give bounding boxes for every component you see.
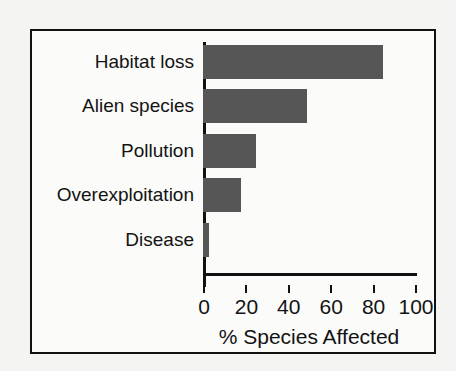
- x-axis-title: % Species Affected: [219, 325, 400, 349]
- x-tick-label-20: 20: [235, 295, 258, 319]
- category-label-habitat-loss: Habitat loss: [95, 45, 194, 79]
- category-label-overexploitation: Overexploitation: [57, 178, 194, 212]
- bar-row: Habitat loss: [203, 45, 383, 79]
- x-tick-label-60: 60: [320, 295, 343, 319]
- x-axis-line: [203, 273, 417, 276]
- x-tick-label-0: 0: [198, 295, 210, 319]
- x-tick-40: [288, 285, 290, 293]
- plot-area: Habitat loss Alien species Pollution Ove…: [203, 42, 415, 284]
- x-tick-60: [330, 285, 332, 293]
- bar-disease: [203, 223, 209, 257]
- bar-row: Disease: [203, 223, 209, 257]
- chart-frame: Habitat loss Alien species Pollution Ove…: [30, 29, 436, 354]
- bar-pollution: [203, 134, 256, 168]
- bar-habitat-loss: [203, 45, 383, 79]
- bar-row: Pollution: [203, 134, 256, 168]
- x-tick-100: [415, 285, 417, 293]
- category-label-disease: Disease: [125, 223, 194, 257]
- x-tick-0: [203, 285, 205, 293]
- category-label-alien-species: Alien species: [82, 89, 194, 123]
- x-tick-label-40: 40: [277, 295, 300, 319]
- bar-row: Alien species: [203, 89, 307, 123]
- x-tick-80: [373, 285, 375, 293]
- category-label-pollution: Pollution: [121, 134, 194, 168]
- bar-row: Overexploitation: [203, 178, 241, 212]
- bar-alien-species: [203, 89, 307, 123]
- figure: Habitat loss Alien species Pollution Ove…: [0, 0, 456, 371]
- x-tick-20: [245, 285, 247, 293]
- x-tick-label-100: 100: [398, 295, 433, 319]
- bar-overexploitation: [203, 178, 241, 212]
- x-tick-label-80: 80: [362, 295, 385, 319]
